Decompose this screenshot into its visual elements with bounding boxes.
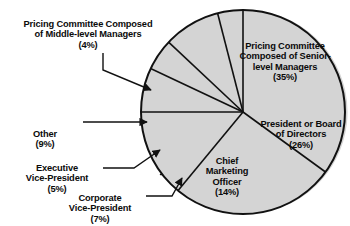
slice-label-text: President or Board of Directors bbox=[261, 119, 342, 140]
slice-percent-text: (26%) bbox=[252, 140, 350, 151]
slice-label-senior-pricing-committee: Pricing Committee Composed of Senior- le… bbox=[222, 30, 348, 94]
slice-label-text: Pricing Committee Composed of Senior- le… bbox=[239, 41, 330, 72]
slice-percent-text: (7%) bbox=[44, 214, 156, 225]
slice-percent-text: (9%) bbox=[12, 139, 78, 150]
slice-percent-text: (35%) bbox=[222, 72, 348, 83]
slice-label-chief-marketing-officer: Chief Marketing Officer (14%) bbox=[197, 145, 257, 209]
slice-label-text: Executive Vice-President bbox=[26, 163, 88, 184]
slice-percent-text: (14%) bbox=[197, 187, 257, 198]
slice-percent-text: (4%) bbox=[8, 40, 168, 51]
slice-label-text: Pricing Committee Composed of Middle-lev… bbox=[24, 19, 153, 40]
slice-label-text: Corporate Vice-President bbox=[69, 193, 131, 214]
slice-label-middle-pricing-committee: Pricing Committee Composed of Middle-lev… bbox=[8, 8, 168, 61]
slice-label-president-or-board: President or Board of Directors (26%) bbox=[252, 108, 350, 161]
pie-chart-figure: Pricing Committee Composed of Senior- le… bbox=[0, 0, 350, 226]
slice-label-text: Other bbox=[33, 129, 57, 139]
slice-label-text: Chief Marketing Officer bbox=[206, 156, 249, 187]
slice-label-corporate-vice-president: Corporate Vice-President (7%) bbox=[44, 182, 156, 226]
